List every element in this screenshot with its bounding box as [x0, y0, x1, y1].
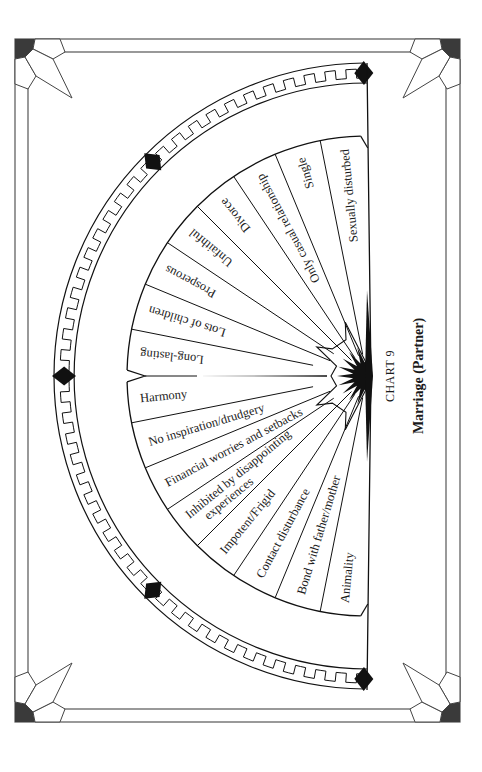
segment-label-group: Long-lasting — [139, 347, 205, 367]
corner-ornament-icon — [403, 39, 460, 98]
segment-label-group: Animality — [338, 551, 357, 604]
caption-title-group: Marriage (Partner) — [411, 318, 427, 435]
pendulum-chart: Sexually disturbedSingleOnly casual rela… — [0, 0, 482, 772]
corner-ornament-icon — [403, 663, 460, 722]
chart-number: CHART 9 — [383, 350, 397, 402]
segment-label: Single — [294, 155, 317, 190]
segment-label-group: Divorce — [217, 195, 254, 235]
chart-title: Marriage (Partner) — [411, 318, 427, 435]
segment-label: Long-lasting — [139, 347, 205, 367]
segment-label: Animality — [338, 551, 357, 604]
ring-marker-icon — [52, 366, 76, 385]
segment-label: Sexually disturbed — [338, 148, 361, 243]
corner-ornament-icon — [15, 663, 72, 722]
segment-label-group: Single — [294, 155, 317, 190]
ring-marker-icon — [354, 667, 373, 691]
segment-label: Harmony — [139, 387, 188, 406]
corner-ornament-icon — [15, 39, 72, 98]
ring-marker-icon — [354, 61, 373, 85]
segment-label: Unfaithful — [186, 226, 236, 270]
segment-label: Only casual relationship — [253, 172, 323, 286]
segment-label-group: Only casual relationship — [253, 172, 323, 286]
segment-label-group: Unfaithful — [186, 226, 236, 270]
segment-label: Divorce — [217, 195, 254, 235]
ring-marker-icon — [144, 153, 161, 170]
caption-number-group: CHART 9 — [383, 350, 397, 402]
chart-page: Sexually disturbedSingleOnly casual rela… — [0, 0, 482, 772]
ring-marker-icon — [144, 582, 161, 599]
segment-divider — [234, 176, 355, 357]
segment-fan: Sexually disturbedSingleOnly casual rela… — [127, 136, 368, 616]
baseline-wedge — [365, 290, 373, 462]
segment-label-group: Sexually disturbed — [338, 148, 361, 243]
segment-label-group: Harmony — [139, 387, 188, 406]
